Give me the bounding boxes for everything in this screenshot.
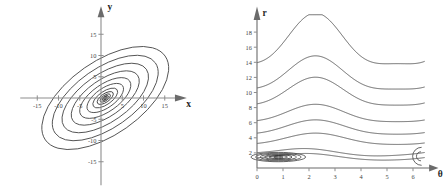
theta-tick-label: 5 (385, 173, 388, 180)
theta-r-contour-plot: 012345624681012141618θr (222, 0, 443, 189)
xy-contour-svg: -15-10-55101515105-5-10-15xy (0, 0, 222, 189)
y-tick-label: 15 (90, 31, 96, 38)
figure-container: -15-10-55101515105-5-10-15xy 01234562468… (0, 0, 443, 189)
contour-level-path (257, 104, 425, 121)
y-tick-label: -10 (88, 137, 97, 144)
x-tick-label: -15 (33, 102, 42, 109)
y-tick-label: -5 (91, 116, 96, 123)
wave-contour-group (257, 15, 425, 160)
y-axis-label: y (108, 2, 113, 12)
theta-tick-label: 6 (411, 173, 414, 180)
theta-tick-label: 2 (307, 173, 310, 180)
xy-contour-plot: -15-10-55101515105-5-10-15xy (0, 0, 222, 189)
r-tick-label: 12 (246, 74, 252, 81)
r-tick-label: 14 (246, 59, 253, 66)
x-axis-arrowhead (175, 95, 187, 102)
theta-axis-label: θ (438, 169, 443, 179)
theta-tick-label: 3 (333, 173, 336, 180)
r-tick-label: 8 (249, 104, 252, 111)
r-tick-label: 16 (246, 44, 252, 51)
x-tick-label: -10 (54, 102, 63, 109)
x-tick-label: 5 (121, 102, 124, 109)
y-axis-arrowhead (98, 6, 105, 17)
x-axis-label: x (186, 99, 191, 109)
contour-level-path (257, 15, 425, 64)
r-tick-label: 18 (246, 29, 252, 36)
r-axis-label: r (263, 8, 268, 18)
closed-contour-loop (274, 156, 283, 158)
theta-tick-label: 4 (359, 173, 363, 180)
contour-level-path (257, 133, 425, 144)
r-tick-label: 4 (249, 134, 253, 141)
x-tick-label: 15 (162, 102, 168, 109)
r-axis-arrowhead (254, 6, 261, 20)
theta-tick-label: 0 (255, 173, 258, 180)
contour-level-path (257, 56, 425, 89)
x-tick-label: -5 (77, 102, 82, 109)
theta-r-contour-svg: 012345624681012141618θr (222, 0, 443, 189)
y-tick-label: 5 (93, 73, 96, 80)
r-tick-label: 2 (249, 149, 252, 156)
r-tick-label: 6 (249, 119, 252, 126)
edge-contour-arc (413, 147, 422, 165)
r-tick-label: 10 (246, 89, 252, 96)
theta-tick-label: 1 (281, 173, 284, 180)
x-tick-label: 10 (140, 102, 146, 109)
y-tick-label: 10 (90, 52, 96, 59)
contour-level-path (257, 77, 425, 105)
y-tick-label: -15 (88, 158, 97, 165)
